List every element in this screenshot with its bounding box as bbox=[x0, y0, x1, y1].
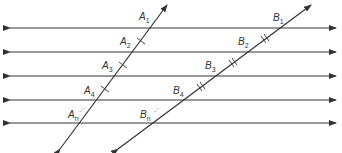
point-label-a1: A1 bbox=[139, 12, 150, 26]
point-label-b1: B1 bbox=[273, 13, 284, 27]
tick-mark-icon bbox=[101, 86, 109, 92]
point-label-a3: A3 bbox=[102, 61, 113, 75]
parallel-lines-diagram: A1 A2 A3 A4 An ... B1 B2 B3 B4 Bn ... bbox=[0, 0, 342, 153]
point-label-b2: B2 bbox=[238, 37, 249, 51]
point-label-b3: B3 bbox=[205, 61, 216, 75]
point-label-bn: Bn bbox=[140, 110, 151, 124]
horizontal-parallel-lines bbox=[10, 28, 336, 123]
point-label-an: An bbox=[68, 110, 79, 124]
diagram-canvas bbox=[0, 0, 342, 153]
point-label-a4: A4 bbox=[84, 86, 95, 100]
transversal-a bbox=[60, 5, 167, 149]
point-label-b4: B4 bbox=[173, 86, 184, 100]
point-label-a2: A2 bbox=[120, 37, 131, 51]
